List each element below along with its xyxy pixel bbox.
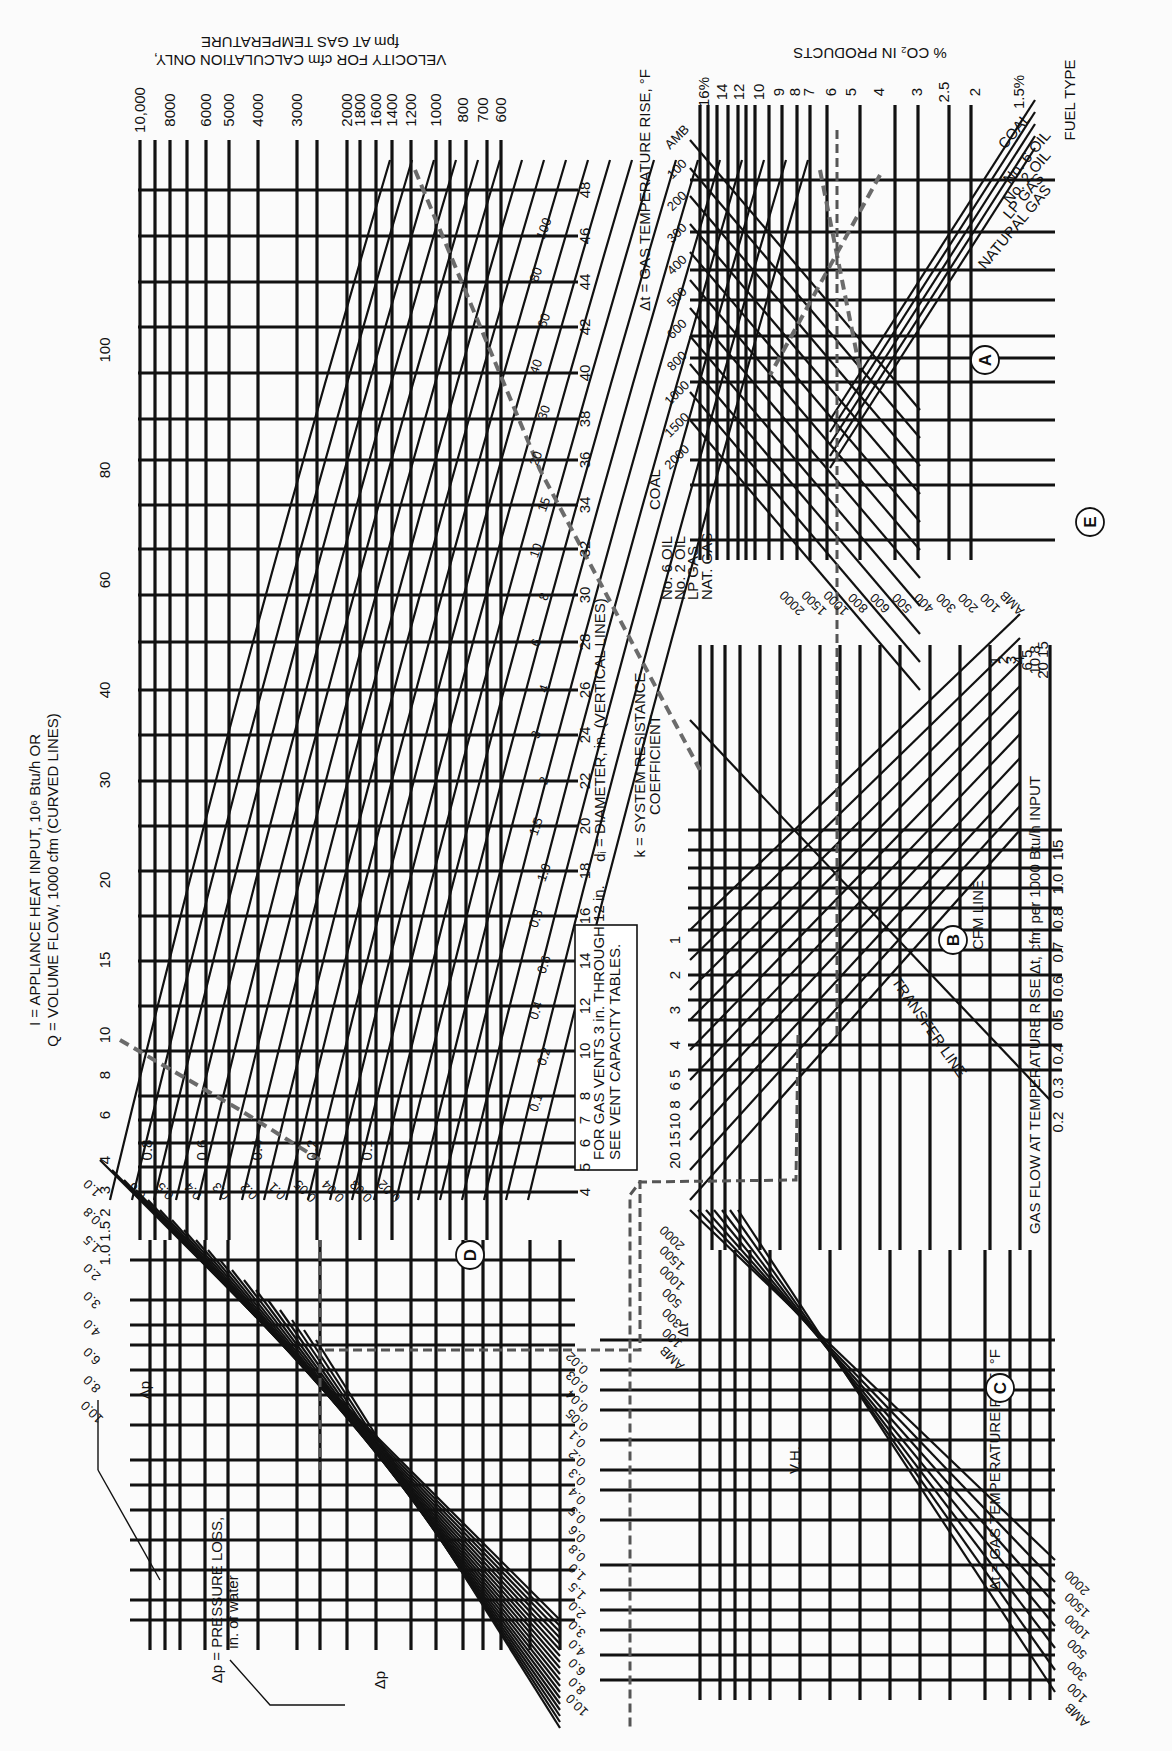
nomograph-svg: VELOCITY FOR cfm CALCULATION ONLY, fpm A… — [0, 0, 1172, 1751]
curve-label: 10 — [526, 541, 545, 560]
heat-input-tick: 30 — [96, 772, 113, 789]
dp-left-tick: 0.03 — [347, 1177, 376, 1206]
heat-input-tick: 4 — [96, 1156, 113, 1164]
curve-label: 0.2 — [534, 1045, 554, 1067]
flow-tick: 0.7 — [1049, 942, 1066, 963]
velocity-head-tick: 0.1 — [358, 1140, 375, 1161]
dp-bottom-tick: 0.2 — [565, 1446, 588, 1469]
dp-left-tick: 0.04 — [319, 1177, 348, 1206]
heat-input-tick: 40 — [96, 682, 113, 699]
co2-tick: 9 — [770, 88, 787, 96]
input-title-line2: Q = VOLUME FLOW, 1000 cfm (CURVED LINES) — [44, 713, 61, 1047]
heat-input-tick: 8 — [96, 1071, 113, 1079]
dp-bottom-tick: 8.0 — [565, 1674, 588, 1697]
co2-tick: 10 — [750, 84, 767, 101]
dt-a-title: Δt = GAS TEMPERATURE RISE, °F — [636, 69, 653, 311]
co2-tick: 16% — [695, 77, 712, 107]
section-d-marker: D — [461, 1249, 480, 1261]
dt-a-side-tick: 600 — [867, 590, 893, 616]
velocity-tick: 1200 — [402, 93, 419, 126]
heat-input-tick: 80 — [96, 462, 113, 479]
co2-tick: 2 — [966, 88, 983, 96]
section-b-marker: B — [944, 934, 963, 946]
dt-c-tick: 2000 — [1061, 1568, 1092, 1599]
diameter-tick: 44 — [576, 274, 593, 291]
diameter-tick: 14 — [576, 953, 593, 970]
section-e-marker: E — [1081, 516, 1100, 527]
dt-c-tick: 100 — [1064, 1680, 1090, 1706]
curve-label: 2 — [535, 774, 552, 786]
velocity-head-tick: 0.4 — [248, 1140, 265, 1161]
dp-symbol-left: Δp — [136, 1381, 153, 1399]
curve-label: 1.0 — [534, 861, 554, 883]
dp-left-tick-2: 6.0 — [80, 1344, 103, 1367]
k-tick-left: 20 15 — [666, 1131, 683, 1169]
section-c-marker: C — [991, 1382, 1010, 1394]
dt-c-tick: 500 — [1064, 1636, 1090, 1662]
velocity-tick: 10,000 — [131, 87, 148, 133]
diameter-tick: 7 — [576, 1116, 593, 1124]
nomograph-figure: VELOCITY FOR cfm CALCULATION ONLY, fpm A… — [0, 0, 1172, 1751]
velocity-tick: 800 — [454, 97, 471, 122]
curve-label: 3 — [527, 728, 544, 740]
velocity-tick: 5000 — [220, 93, 237, 126]
dp-left-tick-2: 4.0 — [80, 1316, 103, 1339]
dp-bottom-tick: 0.6 — [565, 1522, 588, 1545]
velocity-tick: 4000 — [249, 93, 266, 126]
diameter-tick: 20 — [576, 818, 593, 835]
dt-a-tick: 2000 — [661, 441, 692, 472]
co2-tick: 5 — [842, 88, 859, 96]
dp-symbol-bottom: Δp — [371, 1671, 388, 1689]
dp-left-tick-2: 1.0 — [80, 1176, 103, 1199]
side-fuel-coal: COAL — [646, 469, 663, 510]
k-tick-left: 2 — [666, 971, 683, 979]
k-tick-left: 3 — [666, 1006, 683, 1014]
dp-bottom-tick: 6.0 — [565, 1655, 588, 1678]
dt-a-tick: 100 — [664, 156, 690, 182]
dp-bottom-tick: 2.0 — [565, 1598, 588, 1621]
k-tick-left: 6 5 — [666, 1070, 683, 1091]
diameter-tick: 24 — [576, 727, 593, 744]
curve-label: 0.6 — [534, 953, 554, 975]
gas-flow-title: GAS FLOW AT TEMPERATURE RISE Δt, cfm per… — [1026, 776, 1043, 1234]
dp-left-tick-2: 10.0 — [78, 1398, 107, 1427]
section-a-marker: A — [976, 354, 995, 366]
dt-a-tick: 1000 — [661, 377, 692, 408]
diameter-tick: 48 — [576, 182, 593, 199]
flow-tick: 0.8 — [1049, 908, 1066, 929]
diameter-tick: 22 — [576, 773, 593, 790]
dt-a-side-tick: 200 — [955, 590, 981, 616]
curve-label: 0.8 — [526, 907, 546, 929]
diameter-tick: 6 — [576, 1139, 593, 1147]
co2-tick: 7 — [800, 88, 817, 96]
co2-tick: 1.5% — [1010, 75, 1027, 109]
velocity-head-tick: 0.8 — [138, 1140, 155, 1161]
side-fuel-ng: NAT. GAS — [698, 533, 715, 600]
heat-input-tick: 15 — [96, 952, 113, 969]
fuel-type-label: FUEL TYPE — [1061, 60, 1078, 141]
diameter-tick: 34 — [576, 497, 593, 514]
note-line2: SEE VENT CAPACITY TABLES. — [606, 944, 623, 1160]
velocity-tick: 700 — [474, 97, 491, 122]
dp-left-tick-2: 8.0 — [80, 1372, 103, 1395]
velocity-tick: 1400 — [383, 93, 400, 126]
diameter-tick: 46 — [576, 228, 593, 245]
velocity-tick: 1600 — [367, 93, 384, 126]
k-title-line2: COEFFICIENT — [646, 715, 663, 815]
dp-bottom-tick: 1.0 — [565, 1560, 588, 1583]
dt-a-tick: 300 — [664, 220, 690, 246]
diameter-tick: 38 — [576, 411, 593, 428]
dp-bottom-tick: 0.8 — [565, 1541, 588, 1564]
heat-input-tick: 60 — [96, 572, 113, 589]
velocity-title-line2: fpm AT GAS TEMPERATURE — [201, 34, 399, 51]
diameter-tick: 36 — [576, 452, 593, 469]
diameter-tick: 42 — [576, 319, 593, 336]
dt-a-side-tick: 800 — [845, 590, 871, 616]
diameter-tick: 26 — [576, 682, 593, 699]
diameter-title: dᵢ = DIAMETER, in. (VERTICAL LINES) — [591, 598, 608, 862]
curve-label: 6 — [527, 636, 544, 648]
dp-title-line1: Δp = PRESSURE LOSS, — [208, 1517, 225, 1683]
co2-tick: 12 — [730, 84, 747, 101]
flow-tick: 0.4 — [1049, 1044, 1066, 1065]
velocity-title-line1: VELOCITY FOR cfm CALCULATION ONLY, — [154, 52, 446, 69]
